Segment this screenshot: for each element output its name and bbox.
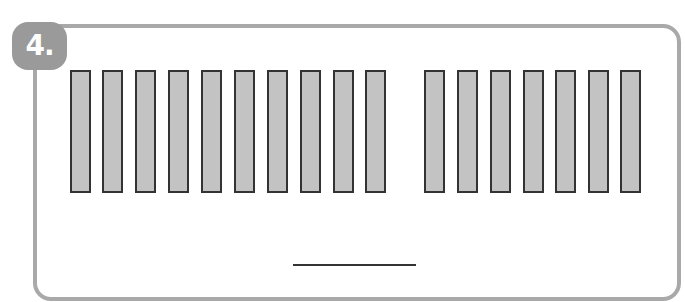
tally-bar-group-2-1	[424, 70, 445, 193]
tally-bar-group-1-8	[300, 70, 321, 193]
tally-bar-group-2-5	[555, 70, 576, 193]
tally-bar-group-1-2	[102, 70, 123, 193]
tally-bar-group-1-4	[168, 70, 189, 193]
tally-bar-group-1-10	[365, 70, 386, 193]
tally-bar-group-1-5	[201, 70, 222, 193]
answer-blank-line[interactable]	[293, 264, 416, 266]
tally-bar-group-1-3	[135, 70, 156, 193]
tally-bar-group-2-6	[588, 70, 609, 193]
tally-bar-group-2-2	[457, 70, 478, 193]
tally-bar-group-1-1	[70, 70, 91, 193]
tally-bar-group-2-7	[620, 70, 641, 193]
problem-frame	[33, 24, 681, 301]
tally-bar-group-2-4	[523, 70, 544, 193]
tally-bar-group-1-6	[234, 70, 255, 193]
tally-bar-group-1-9	[333, 70, 354, 193]
tally-bar-group-2-3	[490, 70, 511, 193]
tally-bar-group-1-7	[267, 70, 288, 193]
problem-number-badge: 4.	[12, 22, 67, 70]
